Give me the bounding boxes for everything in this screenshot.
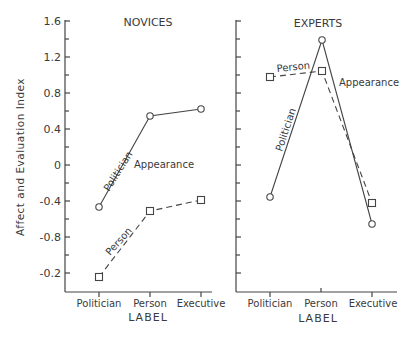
y-tick: -0.8 <box>40 231 61 244</box>
experts-appearance-annotation: Appearance <box>339 77 399 88</box>
y-tick: 1.2 <box>44 51 62 64</box>
x-tick: Politician <box>248 298 293 309</box>
x-tick: Politician <box>77 298 122 309</box>
experts-x-labels: Politician Person Executive <box>248 298 398 309</box>
novices-x-labels: Politician Person Executive <box>77 298 226 309</box>
x-tick: Executive <box>177 298 226 309</box>
x-tick: Person <box>304 298 338 309</box>
y-tick: 0 <box>54 159 61 172</box>
novices-title: NOVICES <box>123 16 172 29</box>
y-tick: 0.4 <box>44 123 62 136</box>
novices-appearance-line <box>96 106 204 210</box>
experts-axes <box>236 20 397 297</box>
chart-figure: 1.6 1.2 0.8 0.4 0 -0.4 -0.8 -0.2 Affect … <box>0 0 416 339</box>
y-tick: -0.2 <box>40 267 61 280</box>
experts-politician-annotation: Politician <box>273 107 297 153</box>
y-tick: -0.4 <box>40 195 61 208</box>
experts-x-axis-label: LABEL <box>298 312 338 325</box>
y-tick: 1.6 <box>44 15 62 28</box>
novices-x-axis-label: LABEL <box>128 311 168 324</box>
y-tick: 0.8 <box>44 87 62 100</box>
novices-appearance-annotation: Appearance <box>134 159 194 170</box>
x-tick: Executive <box>349 298 398 309</box>
y-tick-labels: 1.6 1.2 0.8 0.4 0 -0.4 -0.8 -0.2 <box>40 15 61 280</box>
experts-person-annotation: Person <box>276 60 311 74</box>
novices-person-line <box>96 197 205 281</box>
y-axis-label: Affect and Evaluation Index <box>14 78 26 236</box>
experts-title: EXPERTS <box>294 17 343 30</box>
novices-person-annotation: Person <box>103 225 134 257</box>
novices-politician-annotation: Politician <box>101 149 134 193</box>
x-tick: Person <box>133 298 167 309</box>
